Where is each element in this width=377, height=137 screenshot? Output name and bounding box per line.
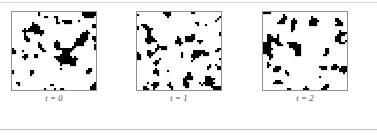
panel-caption-t2: t = 2 [262,93,348,104]
panel-caption-t1: t = 1 [136,93,222,104]
lattice-plot-t0 [12,12,96,90]
figure-bottom-rule [0,129,377,130]
panel-row [0,11,377,91]
panel-caption-t0: t = 0 [11,93,97,104]
panel-border-t2 [262,11,348,91]
panel-group-t1 [136,11,222,91]
panel-group-t2 [262,11,348,91]
figure-root: t = 0 t = 1 t = 2 [0,0,377,137]
panel-border-t0 [11,11,97,91]
lattice-plot-t2 [263,12,347,90]
figure-top-rule [0,2,377,3]
panel-group-t0 [11,11,97,91]
lattice-plot-t1 [137,12,221,90]
panel-border-t1 [136,11,222,91]
